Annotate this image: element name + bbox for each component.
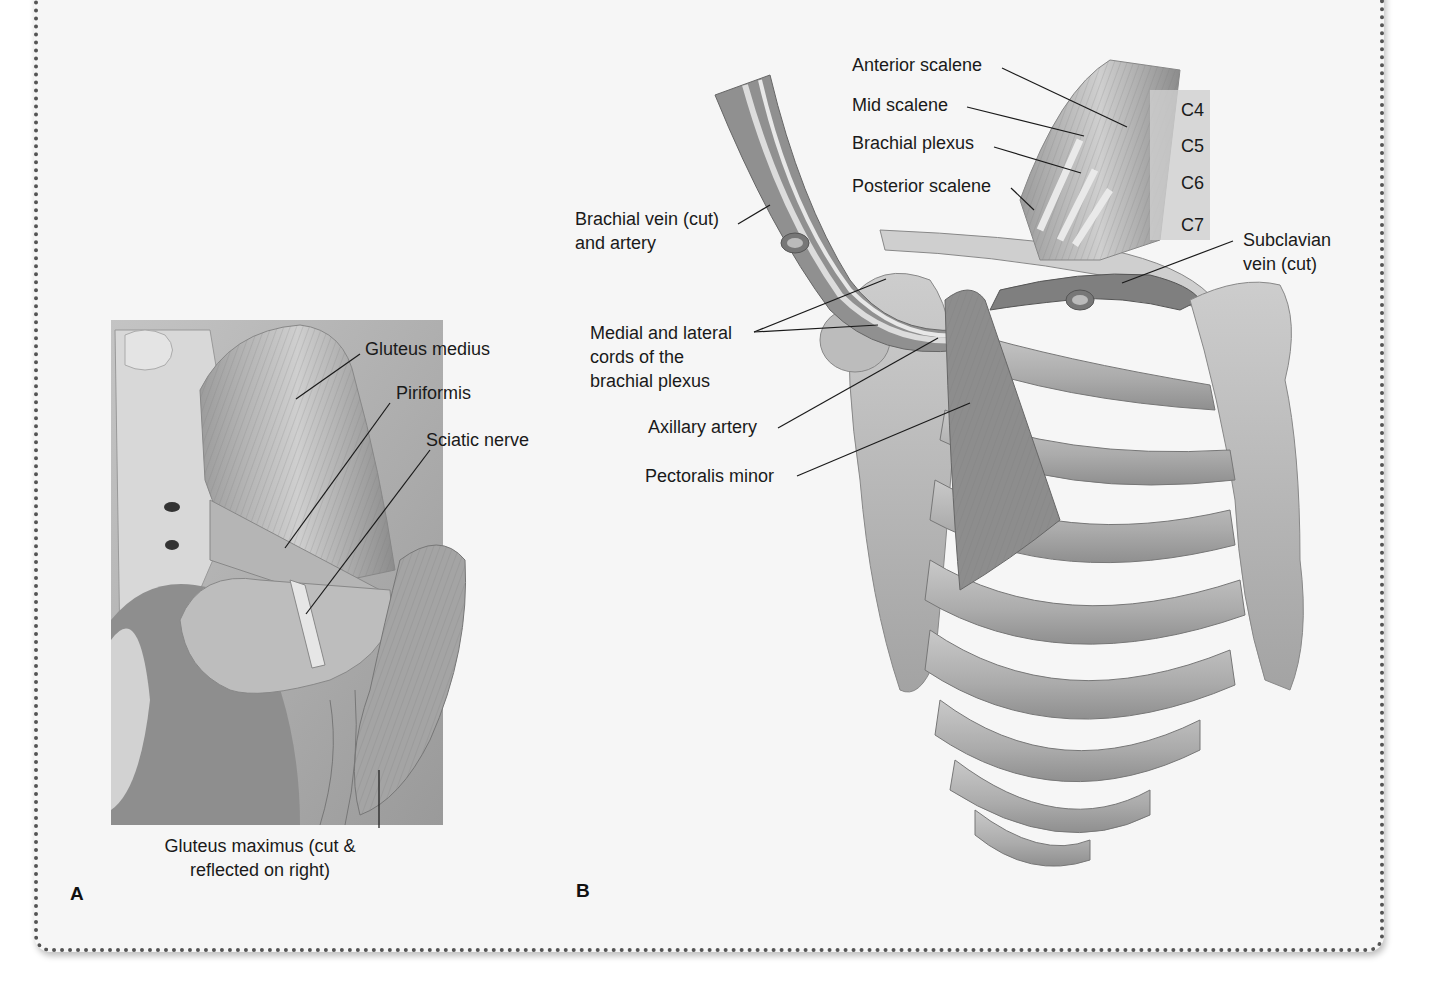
label-vertebra-c4: C4 [1181,98,1204,122]
label-posterior-scalene: Posterior scalene [852,174,991,198]
label-gluteus-maximus-line1: Gluteus maximus (cut & [140,834,380,858]
label-cords-line2: cords of the [590,345,732,369]
label-subclavian-line1: Subclavian [1243,228,1331,252]
panel-letter-a: A [70,883,84,905]
label-axillary-artery: Axillary artery [648,415,757,439]
label-piriformis: Piriformis [396,381,471,405]
label-gluteus-maximus: Gluteus maximus (cut & reflected on righ… [140,834,380,882]
label-anterior-scalene: Anterior scalene [852,53,982,77]
label-vertebra-c5: C5 [1181,134,1204,158]
label-cords-line1: Medial and lateral [590,321,732,345]
label-vertebra-c6: C6 [1181,171,1204,195]
label-brachial-vein-line2: and artery [575,231,719,255]
label-gluteus-maximus-line2: reflected on right) [140,858,380,882]
label-brachial-plexus: Brachial plexus [852,131,974,155]
label-sciatic-nerve: Sciatic nerve [426,428,529,452]
panel-letter-b: B [576,880,590,902]
label-brachial-vein-line1: Brachial vein (cut) [575,207,719,231]
label-vertebra-c7: C7 [1181,213,1204,237]
label-pectoralis-minor: Pectoralis minor [645,464,774,488]
panel-b-illustration [715,60,1303,866]
label-subclavian-line2: vein (cut) [1243,252,1331,276]
label-gluteus-medius: Gluteus medius [365,337,490,361]
label-cords-brachial-plexus: Medial and lateral cords of the brachial… [590,321,732,393]
label-subclavian-vein: Subclavian vein (cut) [1243,228,1331,276]
label-cords-line3: brachial plexus [590,369,732,393]
label-mid-scalene: Mid scalene [852,93,948,117]
label-brachial-vein: Brachial vein (cut) and artery [575,207,719,255]
